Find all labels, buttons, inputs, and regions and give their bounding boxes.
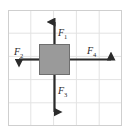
- block-body: [40, 45, 70, 75]
- force-label-f2-subscript: 2: [20, 52, 23, 59]
- diagram-canvas: F1 F2 F3 F4: [0, 0, 131, 135]
- force-label-f1-subscript: 1: [64, 33, 67, 40]
- force-label-f3-subscript: 3: [64, 91, 67, 98]
- free-body-diagram-figure: F1 F2 F3 F4: [0, 0, 131, 135]
